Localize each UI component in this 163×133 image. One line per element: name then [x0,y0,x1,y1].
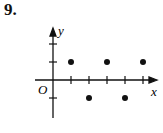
x-axis-label: x [150,84,157,99]
data-point [122,95,128,101]
data-point [104,59,110,65]
origin-label: O [38,82,48,97]
y-axis-label: y [56,23,64,38]
data-point [86,95,92,101]
x-arrow-icon [149,77,157,83]
scatter-plot: y x O [0,0,163,133]
data-point [68,59,74,65]
data-point [140,59,146,65]
y-arrow-icon [50,28,56,36]
